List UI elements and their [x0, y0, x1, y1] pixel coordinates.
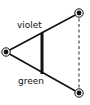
label-violet: violet [17, 20, 42, 30]
triangle-diagram [0, 0, 90, 105]
node-bottom-right [75, 89, 83, 97]
label-green: green [18, 76, 44, 86]
node-left [2, 48, 10, 56]
node-top-right [75, 9, 83, 17]
